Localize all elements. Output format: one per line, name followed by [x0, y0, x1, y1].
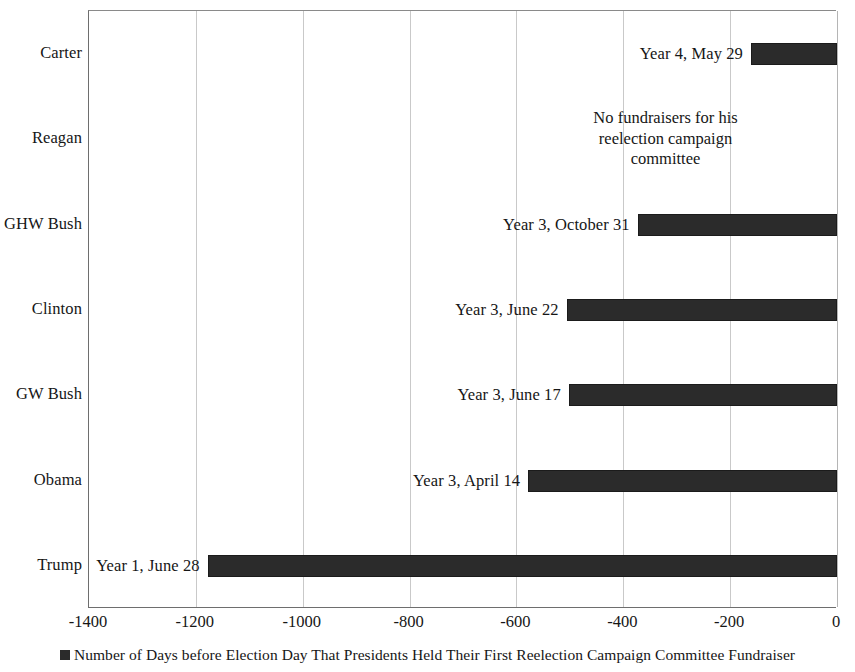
- x-axis-tick-label: -1200: [176, 612, 215, 632]
- bar-data-label: Year 4, May 29: [640, 44, 743, 64]
- y-axis-category-label: GW Bush: [0, 384, 82, 404]
- bar-chart: CarterReaganGHW BushClintonGW BushObamaT…: [0, 0, 855, 672]
- bar-row: Year 3, April 14: [89, 438, 836, 523]
- y-axis-category-label: Trump: [0, 555, 82, 575]
- y-axis-category-label: Reagan: [0, 128, 82, 148]
- x-axis-tick-label: 0: [832, 612, 840, 632]
- y-axis-category-label: GHW Bush: [0, 214, 82, 234]
- bar-row: Year 3, October 31: [89, 182, 836, 267]
- x-axis-tick-label: -200: [714, 612, 744, 632]
- bar: [638, 214, 837, 236]
- bar-row: Year 3, June 22: [89, 267, 836, 352]
- legend-square-marker-icon: [60, 650, 70, 660]
- y-axis-category-label: Obama: [0, 470, 82, 490]
- bar: [569, 384, 837, 406]
- x-axis-tick-label: -400: [607, 612, 637, 632]
- gridline: [837, 11, 838, 607]
- plot-area: Year 4, May 29No fundraisers for his ree…: [88, 10, 836, 608]
- bar-data-label: Year 3, October 31: [503, 215, 630, 235]
- bar-row: Year 4, May 29: [89, 11, 836, 96]
- legend-label: Number of Days before Election Day That …: [74, 646, 795, 664]
- x-axis-tick-label: -1000: [282, 612, 321, 632]
- chart-legend: Number of Days before Election Day That …: [0, 646, 855, 664]
- y-axis-category-labels: CarterReaganGHW BushClintonGW BushObamaT…: [0, 10, 82, 608]
- bar: [567, 299, 837, 321]
- bar: [751, 43, 837, 65]
- y-axis-category-label: Clinton: [0, 299, 82, 319]
- bar: [208, 555, 837, 577]
- bar-row: No fundraisers for his reelection campai…: [89, 96, 836, 181]
- bar-data-label: Year 3, June 17: [457, 385, 560, 405]
- bar: [528, 470, 837, 492]
- y-axis-category-label: Carter: [0, 43, 82, 63]
- bar-data-label: Year 1, June 28: [96, 556, 199, 576]
- bar-row: Year 1, June 28: [89, 524, 836, 609]
- x-axis-tick-labels: -1400-1200-1000-800-600-400-2000: [88, 612, 836, 638]
- no-data-annotation: No fundraisers for his reelection campai…: [581, 108, 751, 169]
- x-axis-tick-label: -1400: [69, 612, 108, 632]
- bar-data-label: Year 3, June 22: [455, 300, 558, 320]
- x-axis-tick-label: -800: [393, 612, 423, 632]
- bar-data-label: Year 3, April 14: [413, 471, 520, 491]
- x-axis-tick-label: -600: [500, 612, 530, 632]
- bar-row: Year 3, June 17: [89, 353, 836, 438]
